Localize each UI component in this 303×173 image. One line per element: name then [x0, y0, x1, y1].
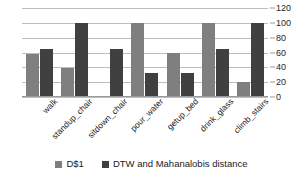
y-axis-tick-mark — [270, 67, 275, 68]
y-axis-tick-label: 80 — [276, 33, 286, 42]
y-axis-tick-label: 0 — [276, 93, 281, 102]
legend-swatch-icon — [55, 161, 62, 168]
bar — [202, 23, 215, 97]
legend-swatch-icon — [102, 161, 109, 168]
legend-label: D$1 — [66, 159, 83, 169]
bar-group — [92, 8, 127, 97]
y-axis-tick-mark — [270, 97, 275, 98]
y-axis: 020406080100120 — [270, 8, 300, 97]
bar-group — [198, 8, 233, 97]
chart-legend: D$1DTW and Mahanalobis distance — [0, 159, 303, 169]
y-axis-tick-mark — [270, 82, 275, 83]
y-axis-tick-label: 120 — [276, 4, 291, 13]
bar — [110, 49, 123, 97]
y-axis-tick-mark — [270, 52, 275, 53]
legend-item: D$1 — [55, 159, 83, 169]
bar-series-container — [22, 8, 268, 97]
bar-chart: 020406080100120 walkstandup_chairsitdown… — [0, 0, 303, 173]
bar — [131, 23, 144, 97]
y-axis-tick-label: 40 — [276, 63, 286, 72]
bar — [75, 23, 88, 97]
y-axis-tick-mark — [270, 22, 275, 23]
bar-group — [127, 8, 162, 97]
bar — [40, 49, 53, 97]
bar-group — [57, 8, 92, 97]
bar — [167, 53, 180, 97]
y-axis-tick-label: 60 — [276, 48, 286, 57]
y-axis-tick-mark — [270, 8, 275, 9]
y-axis-tick-label: 20 — [276, 78, 286, 87]
bar-group — [22, 8, 57, 97]
bar — [26, 54, 39, 97]
bar — [61, 68, 74, 97]
y-axis-tick-label: 100 — [276, 18, 291, 27]
bar — [216, 49, 229, 97]
bar — [181, 73, 194, 97]
plot-area — [22, 8, 268, 97]
x-axis-label: walk — [41, 97, 59, 115]
bar-group — [233, 8, 268, 97]
x-axis-label: getup_bed — [165, 97, 200, 132]
x-axis-labels: walkstandup_chairsitdown_chairpour_water… — [22, 97, 268, 145]
bar — [145, 73, 158, 97]
bar — [237, 82, 250, 97]
x-axis-label: drink_glass — [198, 97, 235, 134]
bar-group — [163, 8, 198, 97]
x-axis-label: pour_water — [128, 97, 164, 133]
legend-item: DTW and Mahanalobis distance — [102, 159, 248, 169]
legend-label: DTW and Mahanalobis distance — [113, 159, 248, 169]
y-axis-tick-mark — [270, 37, 275, 38]
x-axis-label: climb_stairs — [232, 97, 270, 135]
bar — [251, 23, 264, 97]
